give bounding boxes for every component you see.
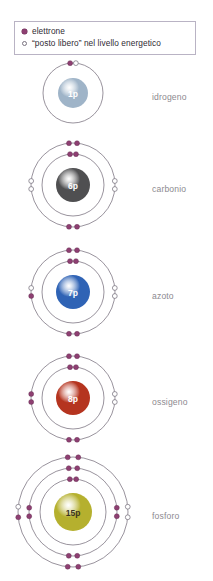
empty-slot-marker [125, 515, 130, 520]
element-label-fosforo: fosforo [152, 511, 179, 521]
electron-marker [66, 553, 71, 558]
electron-marker [65, 455, 70, 460]
legend-row-electron: elettrone [20, 26, 191, 37]
electron-marker [29, 294, 34, 299]
electron-marker [68, 152, 73, 157]
atom-carbonio: 6p [24, 136, 122, 234]
nucleus-label: 6p [68, 181, 78, 191]
empty-slot-marker [112, 187, 117, 192]
electron-marker [66, 248, 71, 253]
nucleus-label: 8p [68, 394, 78, 404]
open-circle-icon [20, 41, 29, 46]
electron-marker [75, 224, 80, 229]
electron-marker [76, 564, 81, 569]
legend-row-empty-slot: “posto libero” nel livello energetico [20, 38, 191, 49]
empty-slot-marker [112, 286, 117, 291]
electron-marker [75, 466, 80, 471]
electron-marker [75, 553, 80, 558]
electron-marker [75, 331, 80, 336]
nucleus-label: 7p [68, 288, 78, 298]
empty-slot-marker [16, 504, 21, 509]
atom-ossigeno: 8p [24, 349, 122, 447]
empty-slot-marker [112, 294, 117, 299]
electron-marker [114, 514, 119, 519]
element-label-ossigeno: ossigeno [152, 397, 188, 407]
electron-marker [29, 400, 34, 405]
electron-marker [74, 477, 79, 482]
electron-marker [27, 505, 32, 510]
electron-marker [66, 331, 71, 336]
atom-idrogeno: 1p [36, 56, 110, 130]
electron-marker [65, 564, 70, 569]
empty-slot-marker [112, 179, 117, 184]
element-label-azoto: azoto [152, 291, 174, 301]
electron-marker [27, 514, 32, 519]
electron-marker [67, 477, 72, 482]
electron-marker [68, 61, 73, 66]
electron-marker [66, 354, 71, 359]
electron-marker [73, 259, 78, 264]
electron-marker [66, 224, 71, 229]
electron-marker [29, 391, 34, 396]
electron-marker [75, 141, 80, 146]
electron-marker [66, 466, 71, 471]
empty-slot-marker [29, 179, 34, 184]
electron-marker [68, 365, 73, 370]
electron-marker [73, 365, 78, 370]
legend-label-electron: elettrone [32, 26, 65, 37]
electron-marker [16, 515, 21, 520]
empty-slot-marker [112, 400, 117, 405]
electron-marker [76, 455, 81, 460]
atomic-shell-diagram-page: elettrone “posto libero” nel livello ene… [0, 0, 213, 581]
electron-marker [68, 259, 73, 264]
atom-fosforo: 15p [11, 450, 135, 574]
nucleus-label: 15p [66, 508, 81, 518]
legend-box: elettrone “posto libero” nel livello ene… [14, 21, 196, 55]
empty-slot-marker [112, 392, 117, 397]
element-label-carbonio: carbonio [152, 184, 186, 194]
electron-marker [66, 437, 71, 442]
element-label-idrogeno: idrogeno [152, 92, 187, 102]
electron-marker [75, 354, 80, 359]
atom-azoto: 7p [24, 243, 122, 341]
electron-marker [66, 141, 71, 146]
electron-marker [75, 437, 80, 442]
electron-marker [73, 152, 78, 157]
electron-marker [114, 505, 119, 510]
legend-label-empty-slot: “posto libero” nel livello energetico [32, 38, 161, 49]
empty-slot-marker [73, 61, 78, 66]
empty-slot-marker [29, 286, 34, 291]
nucleus-label: 1p [68, 89, 78, 99]
filled-dot-icon [20, 29, 29, 34]
empty-slot-marker [125, 504, 130, 509]
empty-slot-marker [29, 187, 34, 192]
electron-marker [75, 248, 80, 253]
